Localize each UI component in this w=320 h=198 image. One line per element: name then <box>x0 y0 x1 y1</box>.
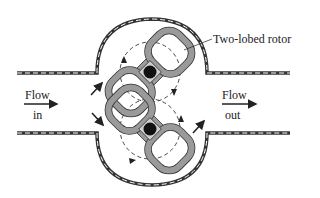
upper-hub <box>144 66 157 79</box>
flow-out-label-line1: Flow <box>222 89 247 101</box>
flow-in-label-line2: in <box>33 109 42 121</box>
flow-in-label-line1: Flow <box>25 89 50 101</box>
lower-hub <box>144 123 157 136</box>
flow-out-label-line2: out <box>225 109 240 121</box>
rotor-label: Two-lobed rotor <box>213 33 291 45</box>
